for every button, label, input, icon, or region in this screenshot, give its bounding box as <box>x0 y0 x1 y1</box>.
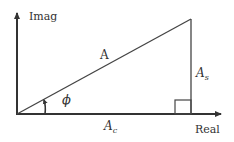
vertical-side-label-main: A <box>196 66 205 80</box>
hypotenuse-label: A <box>100 49 109 61</box>
real-axis-label: Real <box>195 124 220 135</box>
horizontal-side-label: Ac <box>104 120 117 135</box>
angle-label: ϕ <box>62 93 71 106</box>
vertical-side-label: As <box>196 67 209 82</box>
angle-arc <box>44 100 45 114</box>
imag-axis-label: Imag <box>29 11 57 22</box>
hypotenuse-line <box>17 19 191 114</box>
horizontal-side-label-main: A <box>104 119 113 133</box>
phasor-diagram: Imag Real A As Ac ϕ <box>0 0 234 142</box>
vertical-side-label-sub: s <box>205 73 209 82</box>
horizontal-side-label-sub: c <box>113 126 117 135</box>
right-angle-marker <box>175 100 191 114</box>
